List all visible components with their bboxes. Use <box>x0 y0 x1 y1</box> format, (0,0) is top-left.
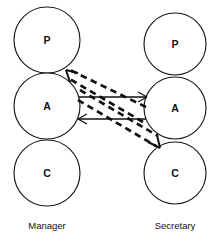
secretary-adult-label: A <box>171 102 179 114</box>
column-manager: P A C <box>14 7 80 206</box>
manager-column-label: Manager <box>28 220 66 231</box>
secretary-child-label: C <box>171 167 179 179</box>
manager-adult-label: A <box>43 100 51 112</box>
solid-arrow-manager-adult-to-secretary-adult[interactable] <box>79 92 147 102</box>
manager-parent-label: P <box>43 34 50 46</box>
manager-child-label: C <box>43 167 51 179</box>
diagram-canvas: P A C P A C <box>0 0 212 240</box>
column-secretary: P A C <box>144 13 206 204</box>
transactional-analysis-diagram: P A C P A C <box>0 0 212 240</box>
secretary-parent-label: P <box>171 38 178 50</box>
solid-arrow-secretary-adult-to-manager-adult[interactable] <box>78 114 146 124</box>
secretary-column-label: Secretary <box>155 220 196 231</box>
